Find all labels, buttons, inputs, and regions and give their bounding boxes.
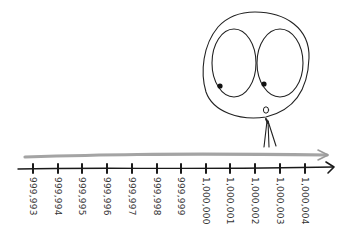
tick-label: 999,995 <box>77 177 87 216</box>
tick-label: 1,000,001 <box>225 177 235 225</box>
tick-label: 999,994 <box>53 177 63 216</box>
progress-arrow-shaft <box>25 154 327 157</box>
tick-label: 1,000,004 <box>300 177 310 225</box>
tick-label: 1,000,002 <box>250 177 260 225</box>
axis-line <box>18 167 333 169</box>
right-pupil <box>261 81 266 86</box>
tick-label: 1,000,003 <box>275 177 285 225</box>
left-pupil <box>217 83 222 88</box>
progress-arrow <box>25 150 328 160</box>
tick-label: 999,997 <box>127 177 137 216</box>
tick-label: 999,996 <box>102 177 112 216</box>
mouth <box>263 107 268 113</box>
number-line-axis <box>18 162 334 173</box>
character-face <box>203 12 309 147</box>
tick-label: 999,993 <box>28 177 38 216</box>
right-eye <box>257 29 303 97</box>
tick-label: 999,999 <box>176 177 186 216</box>
tick-label: 999,998 <box>152 177 162 216</box>
tick-label: 1,000,000 <box>201 177 211 225</box>
neck-line-1 <box>264 121 267 147</box>
